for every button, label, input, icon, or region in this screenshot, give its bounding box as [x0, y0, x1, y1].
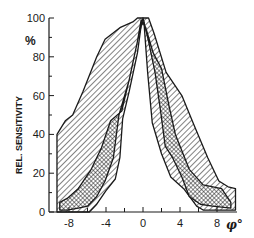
- x-tick-label: 0: [140, 217, 146, 229]
- y-tick-label: 80: [33, 51, 45, 63]
- y-unit-label: %: [25, 34, 36, 48]
- x-tick-label: -8: [64, 217, 74, 229]
- y-tick-label: 40: [33, 128, 45, 140]
- x-tick-label: 4: [177, 217, 183, 229]
- y-axis-title: REL. SENSITIVITY: [14, 96, 24, 174]
- x-axis-title: φ°: [226, 218, 243, 232]
- x-tick-label: 8: [214, 217, 220, 229]
- sensitivity-chart: 020406080100 -8-4048 % REL. SENSITIVITY …: [0, 0, 254, 238]
- x-tick-label: -4: [101, 217, 111, 229]
- y-tick-label: 100: [27, 12, 45, 24]
- y-tick-label: 0: [39, 206, 45, 218]
- data-areas: [57, 18, 236, 212]
- y-tick-label: 60: [33, 90, 45, 102]
- y-tick-label: 20: [33, 167, 45, 179]
